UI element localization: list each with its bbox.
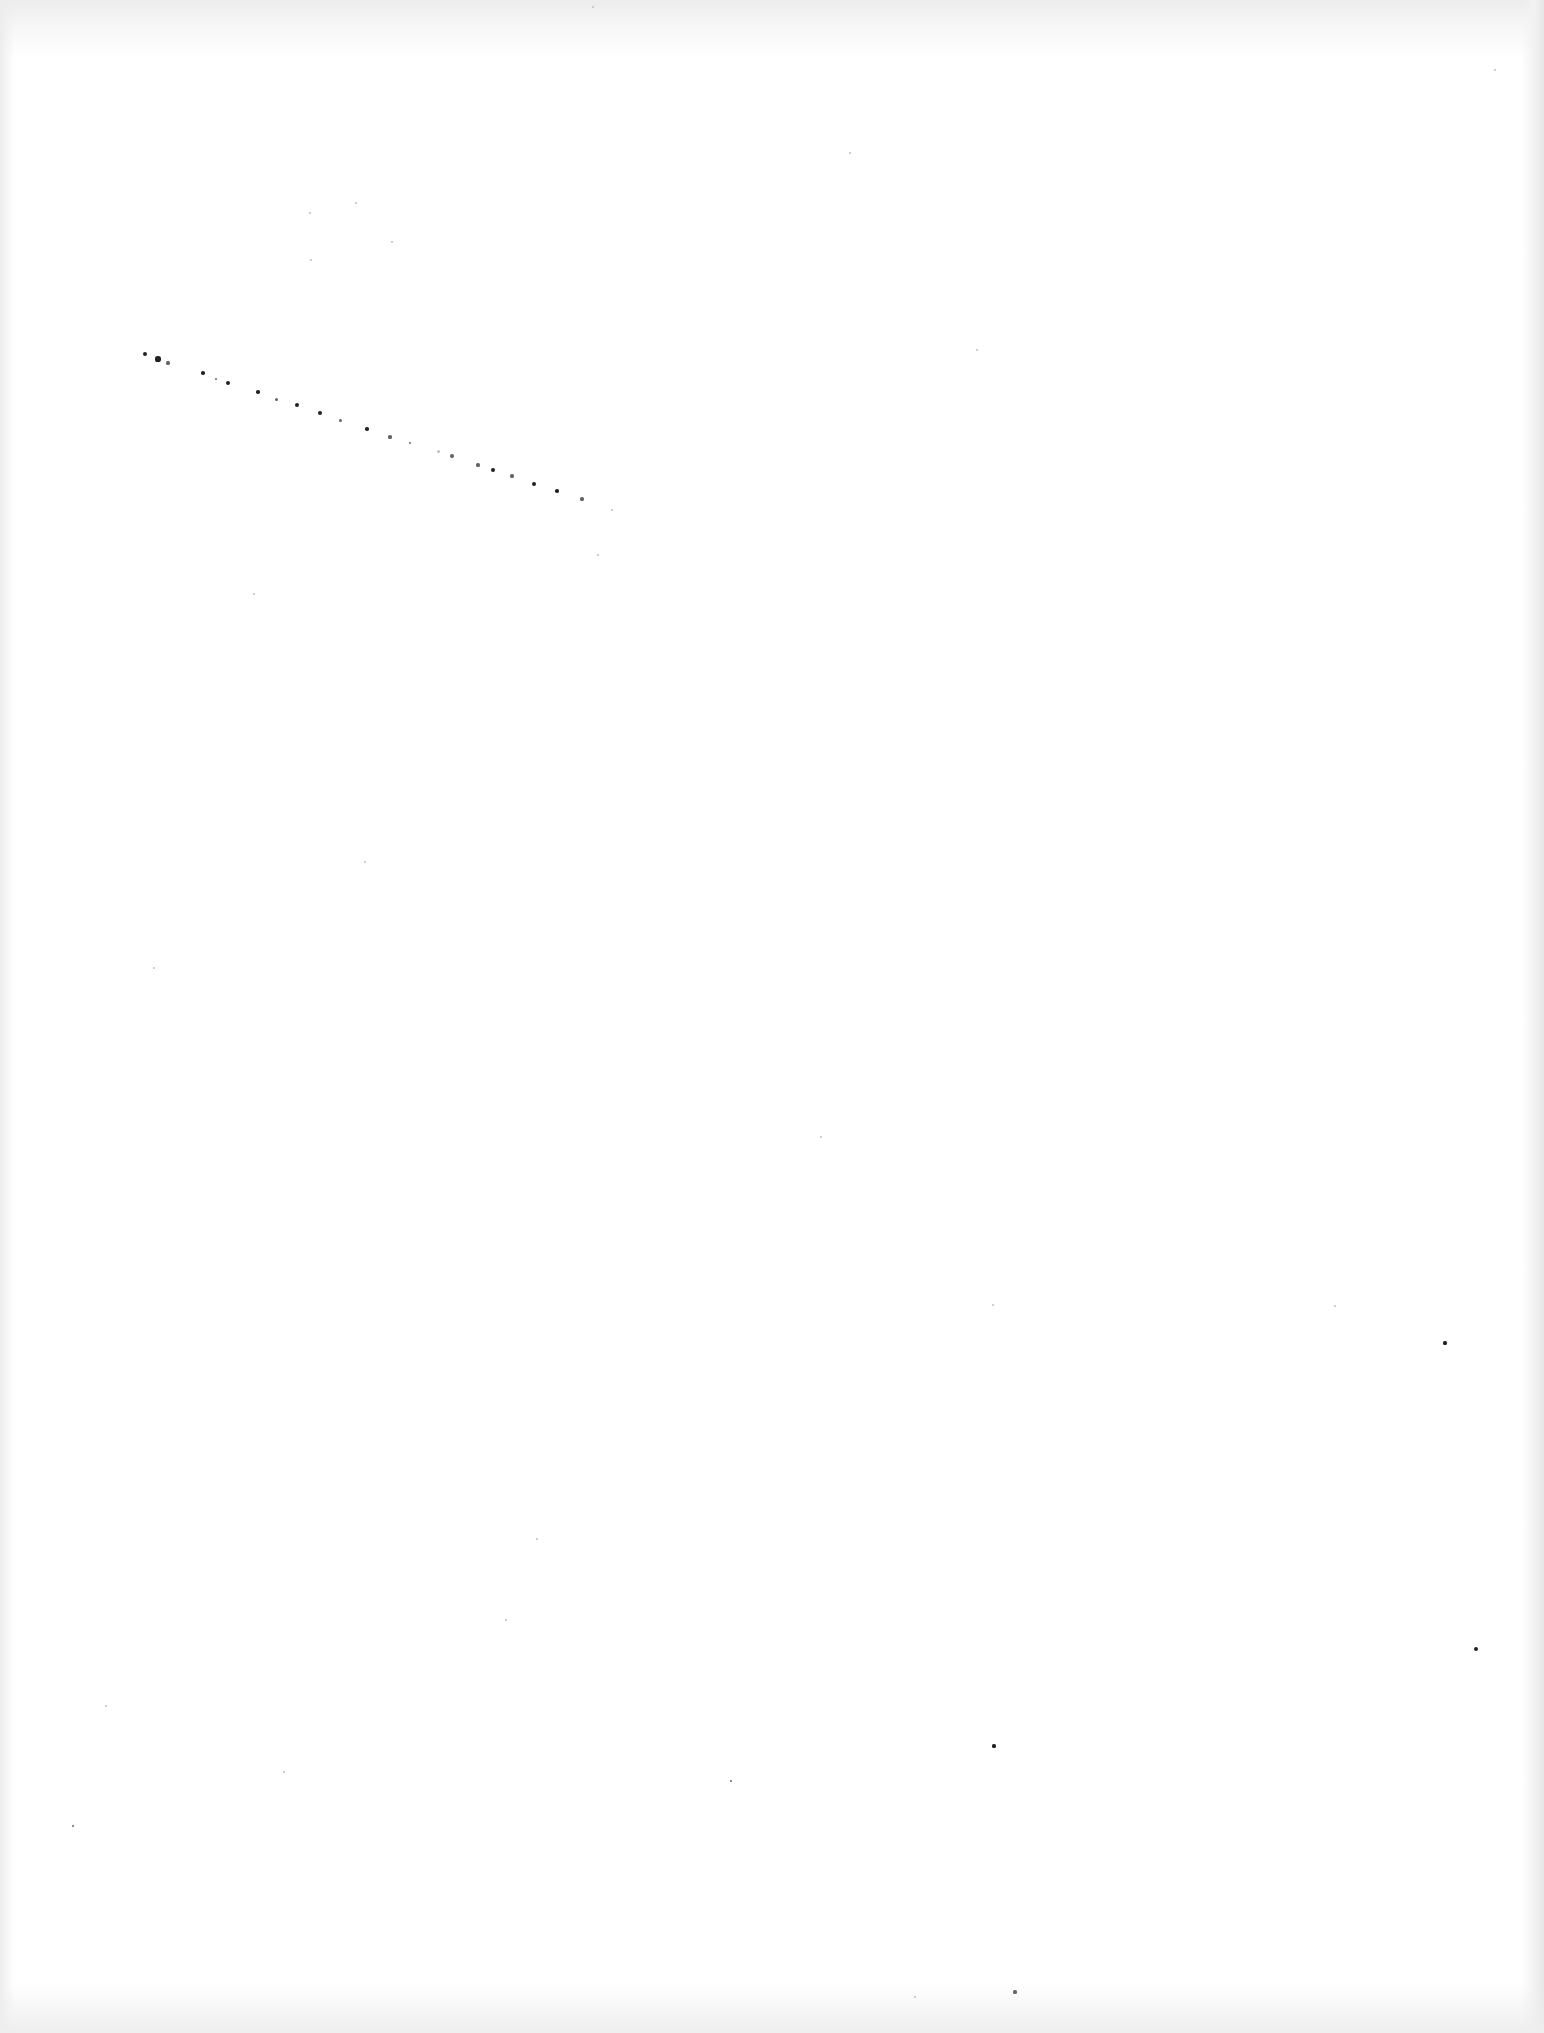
speckle-dot (476, 463, 479, 466)
speckle-dot (388, 435, 391, 438)
speckle-dot (155, 356, 160, 361)
dust-speck (820, 1136, 822, 1138)
speckle-dot (275, 398, 278, 401)
scan-edge-right (1522, 0, 1544, 2033)
speckle-dot (555, 489, 559, 493)
speckle-dot (437, 450, 440, 453)
speckle-dot (611, 509, 614, 512)
dust-speck (309, 212, 311, 214)
dust-speck (283, 1771, 285, 1773)
dust-speck (597, 554, 599, 556)
dust-speck (992, 1304, 994, 1306)
speckle-dot (295, 403, 299, 407)
dust-speck (1494, 69, 1496, 71)
speckle-dot (226, 381, 230, 385)
dust-speck (1334, 1305, 1336, 1307)
dust-speck (105, 1705, 107, 1707)
speckle-dot (339, 419, 342, 422)
dust-speck (1443, 1341, 1446, 1344)
blank-scanned-page (0, 0, 1544, 2033)
speckle-dot (491, 468, 495, 472)
speckle-dot (318, 411, 322, 415)
dust-speck (505, 1619, 507, 1621)
scan-edge-top (0, 0, 1544, 60)
dust-speck (1474, 1647, 1478, 1651)
speckle-dot (365, 427, 369, 431)
dust-speck (849, 152, 851, 154)
dust-speck (592, 6, 594, 8)
speckle-dot (409, 442, 412, 445)
dust-speck (536, 1538, 538, 1540)
dust-speck (992, 1744, 995, 1747)
speckle-dot (201, 371, 205, 375)
dust-speck (364, 861, 366, 863)
speckle-dot (510, 474, 513, 477)
dust-speck (914, 1996, 916, 1998)
dust-speck (391, 241, 393, 243)
dust-speck (310, 259, 312, 261)
speckle-dot (532, 482, 536, 486)
dust-speck (153, 967, 155, 969)
speckle-dot (450, 454, 454, 458)
dust-speck (976, 349, 978, 351)
dust-speck (72, 1825, 74, 1827)
scan-edge-bottom (0, 1983, 1544, 2033)
speckle-dot (580, 497, 583, 500)
speckle-dot (256, 390, 260, 394)
dust-speck (730, 1780, 733, 1783)
dust-speck (355, 202, 357, 204)
speckle-dot (215, 378, 218, 381)
dust-speck (1013, 1990, 1016, 1993)
dust-speck (253, 593, 255, 595)
scan-edge-left (0, 0, 14, 2033)
speckle-dot (166, 361, 169, 364)
speckle-dot (143, 352, 147, 356)
